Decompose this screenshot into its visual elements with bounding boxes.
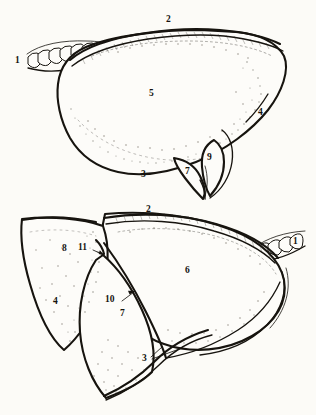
label-upper-3: 3: [141, 170, 146, 180]
label-lower-1: 1: [293, 237, 298, 247]
label-upper-2: 2: [166, 15, 171, 25]
label-upper-5: 5: [149, 89, 154, 99]
illustration-plate: 1 2 3 4 5 7 9 1 2 3 4 6 7 8 10 11: [0, 0, 316, 415]
label-upper-7: 7: [185, 167, 190, 177]
label-lower-10: 10: [105, 295, 115, 305]
label-lower-11: 11: [78, 243, 87, 253]
label-lower-4: 4: [53, 297, 58, 307]
upper-figure: [27, 29, 286, 199]
upper-lung-body: [58, 30, 287, 174]
lower-figure: [21, 213, 305, 400]
label-upper-4: 4: [258, 108, 263, 118]
label-upper-9: 9: [207, 153, 212, 163]
anatomy-drawing: [0, 0, 316, 415]
label-upper-1: 1: [15, 56, 20, 66]
label-lower-6: 6: [185, 266, 190, 276]
label-lower-7: 7: [120, 309, 125, 319]
label-lower-3: 3: [142, 354, 147, 364]
label-lower-8: 8: [62, 244, 67, 254]
upper-tongue-7: [174, 158, 205, 199]
label-lower-2: 2: [146, 205, 151, 215]
